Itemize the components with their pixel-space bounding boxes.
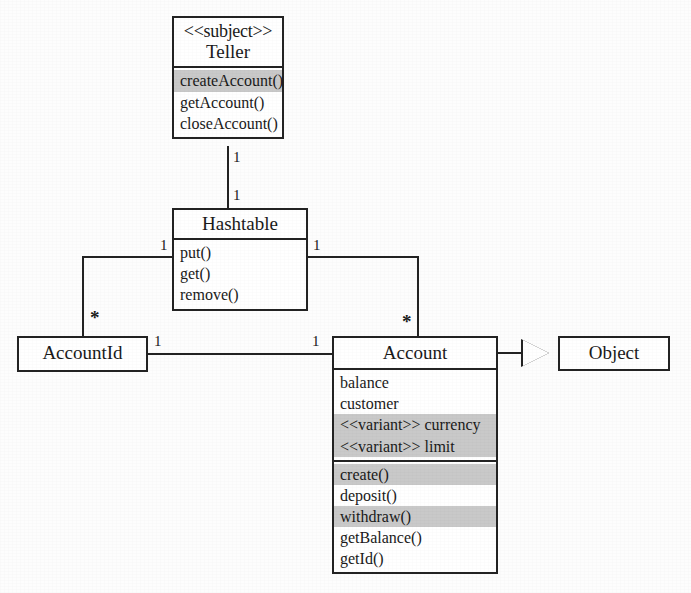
operation-row[interactable]: get() xyxy=(174,263,306,284)
class-name-accountid: AccountId xyxy=(19,342,146,363)
attribute-row[interactable]: <<variant>> limit xyxy=(334,436,496,457)
operations-compartment-teller: createAccount() getAccount() closeAccoun… xyxy=(174,66,282,136)
attribute-row[interactable]: <<variant>> currency xyxy=(334,414,496,435)
attributes-compartment-account: balance customer <<variant>> currency <<… xyxy=(334,368,496,459)
class-box-hashtable[interactable]: Hashtable put() get() remove() xyxy=(172,208,308,311)
attribute-row[interactable]: balance xyxy=(334,372,496,393)
operation-row[interactable]: getBalance() xyxy=(334,527,496,548)
connector-hashtable-account-horizontal xyxy=(306,256,419,258)
operation-row[interactable]: getId() xyxy=(334,548,496,569)
class-name-account: Account xyxy=(334,342,496,363)
operation-row[interactable]: closeAccount() xyxy=(174,113,282,134)
operations-compartment-hashtable: put() get() remove() xyxy=(174,238,306,308)
multiplicity-hashtable-top: 1 xyxy=(233,188,241,203)
operation-row[interactable]: put() xyxy=(174,242,306,263)
operations-compartment-account: create() deposit() withdraw() getBalance… xyxy=(334,460,496,573)
operation-row[interactable]: deposit() xyxy=(334,485,496,506)
attribute-row[interactable]: customer xyxy=(334,393,496,414)
connector-hashtable-accountid-vertical xyxy=(82,256,84,338)
operation-row[interactable]: remove() xyxy=(174,284,306,305)
class-name-teller: Teller xyxy=(174,41,282,62)
connector-account-object xyxy=(497,352,523,354)
connector-hashtable-accountid-horizontal xyxy=(82,256,174,258)
class-header-hashtable: Hashtable xyxy=(174,210,306,238)
class-box-object[interactable]: Object xyxy=(558,336,670,371)
multiplicity-account-left: 1 xyxy=(312,334,320,349)
multiplicity-hashtable-right: 1 xyxy=(313,238,321,253)
operation-row[interactable]: withdraw() xyxy=(334,506,496,527)
class-header-accountid: AccountId xyxy=(19,338,146,367)
class-stereotype-teller: <<subject>> xyxy=(174,21,282,41)
class-name-object: Object xyxy=(560,342,668,363)
multiplicity-accountid-right: 1 xyxy=(154,334,162,349)
operation-row[interactable]: getAccount() xyxy=(174,92,282,113)
multiplicity-accountid-top: * xyxy=(90,308,100,327)
connector-accountid-account xyxy=(147,353,333,355)
connector-hashtable-account-vertical xyxy=(417,256,419,338)
connector-teller-hashtable xyxy=(227,146,229,210)
class-box-accountid[interactable]: AccountId xyxy=(17,336,148,372)
operation-row[interactable]: createAccount() xyxy=(174,70,282,91)
generalization-arrowhead-fill xyxy=(523,340,549,366)
operation-row[interactable]: create() xyxy=(334,464,496,485)
uml-class-diagram-canvas: 1 1 1 * 1 * 1 1 <<subject>> Teller creat… xyxy=(0,0,691,593)
multiplicity-teller-bottom: 1 xyxy=(233,150,241,165)
class-box-teller[interactable]: <<subject>> Teller createAccount() getAc… xyxy=(172,16,284,139)
multiplicity-account-top: * xyxy=(402,312,412,331)
class-header-object: Object xyxy=(560,338,668,367)
multiplicity-hashtable-left: 1 xyxy=(160,238,168,253)
class-header-teller: <<subject>> Teller xyxy=(174,18,282,66)
class-name-hashtable: Hashtable xyxy=(174,213,306,234)
class-box-account[interactable]: Account balance customer <<variant>> cur… xyxy=(332,336,498,574)
class-header-account: Account xyxy=(334,338,496,368)
